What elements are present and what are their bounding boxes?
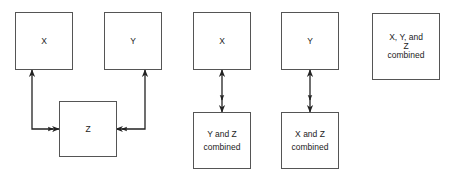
box-x-panel2: X: [193, 12, 251, 70]
box-y-label: Y: [130, 36, 136, 46]
box-yz-combined: Y and Z combined: [193, 112, 251, 169]
box-x-label: X: [41, 36, 47, 46]
box-xz-combined: X and Z combined: [281, 112, 339, 169]
box-z: Z: [59, 101, 117, 157]
box-y-panel3: Y: [281, 12, 339, 70]
link-x-z: [32, 70, 59, 129]
box-x-panel2-label: X: [219, 36, 225, 46]
box-xyz-label-line3: combined: [388, 51, 425, 60]
box-x: X: [15, 12, 73, 70]
box-xyz-combined: X, Y, and Z combined: [372, 13, 440, 80]
box-xz-label-line2: combined: [292, 142, 329, 152]
box-yz-label-line1: Y and Z: [207, 129, 237, 139]
box-z-label: Z: [85, 124, 90, 134]
box-xz-label-line1: X and Z: [295, 129, 325, 139]
box-yz-label-line2: combined: [204, 142, 241, 152]
link-y-z: [116, 70, 145, 129]
box-y: Y: [104, 12, 162, 70]
box-y-panel3-label: Y: [307, 36, 313, 46]
